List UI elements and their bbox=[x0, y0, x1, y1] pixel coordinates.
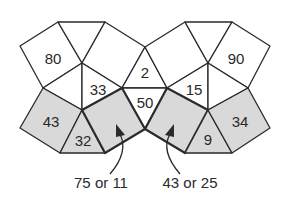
net-diagram: 80 90 2 33 15 50 43 32 9 34 75 or 11 43 … bbox=[0, 0, 289, 197]
callout-left: 75 or 11 bbox=[74, 174, 128, 191]
label-15: 15 bbox=[186, 81, 203, 98]
label-80: 80 bbox=[45, 50, 62, 67]
label-33: 33 bbox=[90, 81, 107, 98]
label-32: 32 bbox=[75, 132, 92, 149]
label-9: 9 bbox=[204, 131, 212, 148]
callout-right: 43 or 25 bbox=[162, 174, 217, 191]
label-43: 43 bbox=[43, 113, 60, 130]
label-50: 50 bbox=[137, 94, 154, 111]
label-90: 90 bbox=[228, 50, 245, 67]
label-2: 2 bbox=[141, 64, 149, 81]
label-34: 34 bbox=[232, 113, 249, 130]
